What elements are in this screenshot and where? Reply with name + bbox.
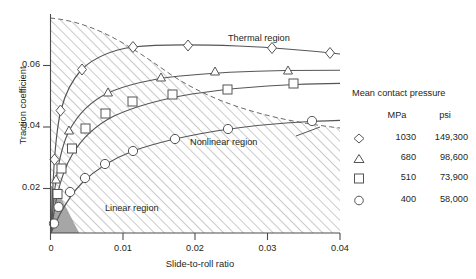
legend-mpa-value: 680: [378, 152, 416, 163]
legend-row-680: 680 98,600: [352, 151, 476, 168]
legend-row-510: 510 73,900: [352, 171, 476, 188]
circle-marker-icon: [352, 195, 366, 206]
traction-coefficient-chart: Traction coefficient Slide-to-roll ratio…: [0, 0, 476, 279]
y-tick-0-04: 0.04: [16, 120, 40, 130]
y-tick-0-02: 0.02: [16, 182, 40, 192]
x-tick-0-02: 0.02: [177, 243, 213, 253]
legend-col-psi: psi: [422, 110, 468, 121]
x-tick-0-01: 0.01: [105, 243, 141, 253]
x-tick-0: 0: [40, 243, 62, 253]
legend-psi-value: 58,000: [422, 194, 468, 205]
y-tick-0-06: 0.06: [16, 59, 40, 69]
legend-psi-value: 73,900: [422, 172, 468, 183]
triangle-marker-icon: [352, 153, 366, 164]
x-axis-label: Slide-to-roll ratio: [120, 258, 280, 269]
legend-mpa-value: 1030: [378, 132, 416, 143]
legend-psi-value: 98,600: [422, 152, 468, 163]
y-axis-ticks: [43, 66, 51, 189]
legend-title: Mean contact pressure: [352, 88, 445, 99]
legend-row-1030: 1030 149,300: [352, 131, 476, 148]
annotation-thermal-region: Thermal region: [228, 33, 290, 43]
x-tick-0-03: 0.03: [250, 243, 286, 253]
diamond-marker-icon: [352, 133, 366, 144]
square-marker-icon: [352, 173, 366, 184]
legend-mpa-value: 510: [378, 172, 416, 183]
legend-row-400: 400 58,000: [352, 193, 476, 210]
annotation-linear-region: Linear region: [105, 203, 159, 213]
legend-psi-value: 149,300: [422, 132, 468, 143]
legend-col-mpa: MPa: [378, 110, 416, 121]
x-axis-ticks: [51, 233, 341, 240]
annotation-nonlinear-region: Nonlinear region: [190, 137, 257, 147]
legend-mpa-value: 400: [378, 194, 416, 205]
x-tick-0-04: 0.04: [322, 243, 358, 253]
